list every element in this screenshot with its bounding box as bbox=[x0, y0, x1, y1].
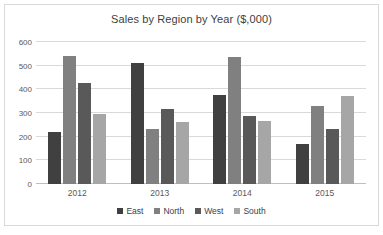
y-tick-label: 600 bbox=[4, 38, 32, 47]
bar-group-bars bbox=[201, 42, 284, 184]
legend-label: North bbox=[163, 206, 184, 216]
bar-group bbox=[119, 42, 202, 184]
bar-north-2015[interactable] bbox=[311, 106, 324, 184]
legend-swatch-icon bbox=[117, 208, 123, 214]
y-tick-label: 300 bbox=[4, 109, 32, 118]
bar-group bbox=[284, 42, 367, 184]
y-tick-label: 100 bbox=[4, 156, 32, 165]
legend-label: East bbox=[126, 206, 143, 216]
y-tick-label: 0 bbox=[4, 180, 32, 189]
legend-label: South bbox=[243, 206, 265, 216]
bar-group bbox=[201, 42, 284, 184]
legend-swatch-icon bbox=[195, 208, 201, 214]
x-tick-label-2012: 2012 bbox=[36, 188, 119, 198]
x-tick-label-2015: 2015 bbox=[284, 188, 367, 198]
y-tick-label: 400 bbox=[4, 85, 32, 94]
x-tick-label-2014: 2014 bbox=[201, 188, 284, 198]
bar-north-2013[interactable] bbox=[146, 129, 159, 184]
bar-west-2014[interactable] bbox=[243, 116, 256, 184]
legend-item-west[interactable]: West bbox=[195, 206, 223, 216]
y-axis-tick-labels: 0100200300400500600 bbox=[0, 42, 32, 184]
bar-east-2013[interactable] bbox=[131, 63, 144, 184]
bar-west-2012[interactable] bbox=[78, 83, 91, 184]
plot-area bbox=[36, 42, 366, 184]
bar-group-bars bbox=[36, 42, 119, 184]
bar-group-bars bbox=[284, 42, 367, 184]
bar-east-2012[interactable] bbox=[48, 132, 61, 184]
legend-label: West bbox=[204, 206, 223, 216]
chart-container: Sales by Region by Year ($,000) 01002003… bbox=[0, 0, 383, 235]
legend-swatch-icon bbox=[154, 208, 160, 214]
legend-item-north[interactable]: North bbox=[154, 206, 184, 216]
bar-west-2015[interactable] bbox=[326, 129, 339, 184]
bar-east-2015[interactable] bbox=[296, 144, 309, 184]
bar-south-2015[interactable] bbox=[341, 96, 354, 184]
bar-south-2012[interactable] bbox=[93, 114, 106, 184]
legend-item-east[interactable]: East bbox=[117, 206, 143, 216]
chart-legend: EastNorthWestSouth bbox=[0, 206, 383, 216]
legend-item-south[interactable]: South bbox=[234, 206, 265, 216]
y-tick-label: 200 bbox=[4, 132, 32, 141]
bar-north-2012[interactable] bbox=[63, 56, 76, 184]
bar-west-2013[interactable] bbox=[161, 109, 174, 184]
bar-east-2014[interactable] bbox=[213, 95, 226, 184]
x-tick-label-2013: 2013 bbox=[119, 188, 202, 198]
bar-south-2014[interactable] bbox=[258, 121, 271, 184]
bar-group bbox=[36, 42, 119, 184]
y-tick-label: 500 bbox=[4, 61, 32, 70]
chart-title: Sales by Region by Year ($,000) bbox=[0, 13, 383, 25]
bar-north-2014[interactable] bbox=[228, 57, 241, 184]
legend-swatch-icon bbox=[234, 208, 240, 214]
bar-south-2013[interactable] bbox=[176, 122, 189, 184]
bar-group-bars bbox=[119, 42, 202, 184]
